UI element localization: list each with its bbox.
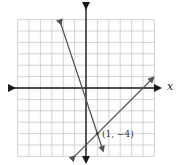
- intersection-label: (1, −4): [102, 129, 134, 139]
- intersection-point: [96, 132, 99, 135]
- x-axis-label: x: [167, 80, 173, 93]
- coordinate-plane: [0, 0, 177, 165]
